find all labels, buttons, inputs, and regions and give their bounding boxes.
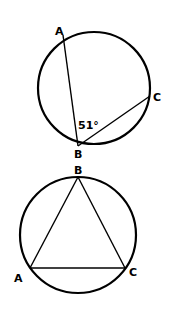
angle-label: 51° [78,119,99,132]
side-ab [30,177,78,268]
geometry-diagram: A B C 51° B A C [0,0,173,312]
point-label-b1: B [74,148,82,161]
point-label-c2: C [129,266,137,279]
figure-inscribed-triangle: B A C [14,164,137,293]
figure-inscribed-angle: A B C 51° [38,25,161,161]
point-label-a2: A [14,272,23,285]
chord-ba [63,35,78,146]
point-label-a1: A [55,25,64,38]
point-label-b2: B [74,164,82,177]
side-bc [78,177,125,268]
circle-2 [20,177,136,293]
point-label-c1: C [153,91,161,104]
